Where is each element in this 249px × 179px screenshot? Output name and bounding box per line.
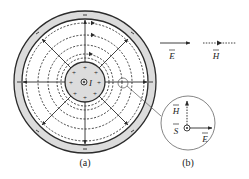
svg-text:+: +: [97, 79, 101, 87]
svg-text:+: +: [73, 90, 77, 98]
poynting-vector-out-icon: [184, 125, 190, 131]
legend-h-field: H: [203, 41, 236, 62]
panel-b: H S E (b): [161, 96, 215, 169]
coaxial-field-diagram: + + + + + + + + I (a): [0, 0, 249, 179]
panel-a: + + + + + + + + I (a): [14, 11, 161, 169]
svg-text:+: +: [93, 90, 97, 98]
panel-b-label: (b): [182, 157, 194, 169]
e-label: E: [201, 134, 208, 144]
h-label: H: [172, 106, 180, 116]
legend: E H: [160, 41, 236, 62]
svg-text:+: +: [94, 69, 98, 77]
svg-text:H: H: [212, 51, 220, 61]
panel-a-label: (a): [79, 157, 90, 169]
svg-text:+: +: [83, 64, 87, 72]
svg-text:+: +: [83, 94, 87, 102]
svg-text:+: +: [72, 69, 76, 77]
legend-e-field: E: [160, 43, 190, 61]
s-label: S: [174, 126, 179, 136]
svg-text:E: E: [168, 51, 175, 61]
svg-text:+: +: [69, 79, 73, 87]
